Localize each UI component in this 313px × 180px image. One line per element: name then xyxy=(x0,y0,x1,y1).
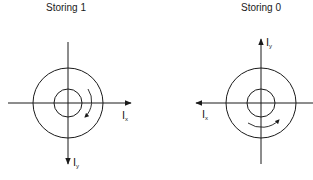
core-storing-0 xyxy=(196,39,313,164)
iy-label-storing-0: Iy xyxy=(266,37,272,49)
iy-label-sub: y xyxy=(76,163,79,169)
ix-label-sub: x xyxy=(125,116,128,122)
iy-label-sub: y xyxy=(269,43,272,49)
ix-label-storing-0: Ix xyxy=(202,109,208,121)
ix-label-sub: x xyxy=(205,115,208,121)
ix-label-storing-1: Ix xyxy=(122,110,128,122)
iy-label-storing-1: Iy xyxy=(73,157,79,169)
core-diagrams xyxy=(0,0,313,180)
counterclockwise-flux-arrow xyxy=(248,120,279,127)
core-storing-1 xyxy=(8,42,131,164)
